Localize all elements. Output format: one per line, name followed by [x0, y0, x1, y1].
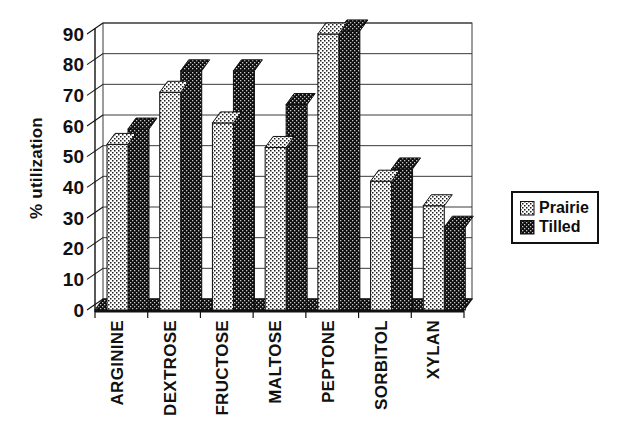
y-tick-label: 50 [63, 146, 84, 167]
y-axis-title: % utilization [27, 117, 47, 219]
y-tick-label: 40 [63, 177, 84, 198]
bar-tilled-xylan [444, 227, 465, 310]
y-tick-label: 80 [63, 54, 84, 75]
x-axis-labels: ARGININEDEXTROSEFRUCTOSEMALTOSEPEPTONESO… [108, 320, 443, 416]
x-category-label: MALTOSE [266, 320, 285, 404]
legend-label-tilled: Tilled [539, 219, 581, 235]
prairie-pattern-swatch-icon [520, 201, 535, 216]
y-tick-label: 0 [73, 300, 84, 321]
bar-prairie-dextrose [160, 92, 181, 310]
bar-tilled-sorbitol [392, 169, 413, 310]
bar-prairie-arginine [107, 144, 128, 310]
bar-prairie-maltose [265, 147, 286, 310]
y-tick-label: 90 [63, 24, 84, 45]
x-category-label: PEPTONE [319, 320, 338, 403]
y-tick-label: 70 [63, 85, 84, 106]
x-category-label: SORBITOL [372, 320, 391, 410]
figure-frame: 0102030405060708090 ARGININEDEXTROSEFRUC… [0, 0, 632, 432]
legend-item-prairie: Prairie [520, 200, 597, 216]
y-tick-label: 30 [63, 208, 84, 229]
bar-prairie-xylan [423, 206, 444, 310]
bar-tilled-peptone [339, 31, 360, 310]
bar-tilled-dextrose [181, 71, 202, 310]
legend-item-tilled: Tilled [520, 219, 597, 235]
x-category-label: DEXTROSE [161, 320, 180, 416]
legend-label-prairie: Prairie [539, 200, 589, 216]
y-tick-label: 20 [63, 238, 84, 259]
y-tick-label: 60 [63, 116, 84, 137]
bar-prairie-peptone [318, 34, 339, 310]
y-tick-label: 10 [63, 269, 84, 290]
x-category-label: XYLAN [424, 320, 443, 379]
bar-tilled-fructose [233, 71, 254, 310]
x-category-label: ARGININE [108, 320, 127, 406]
legend: Prairie Tilled [511, 191, 599, 244]
bar-tilled-arginine [128, 129, 149, 310]
x-category-label: FRUCTOSE [213, 320, 232, 416]
bar-tilled-maltose [286, 105, 307, 310]
bar-prairie-sorbitol [371, 181, 392, 310]
tilled-pattern-swatch-icon [520, 220, 535, 235]
bar-prairie-fructose [212, 123, 233, 310]
